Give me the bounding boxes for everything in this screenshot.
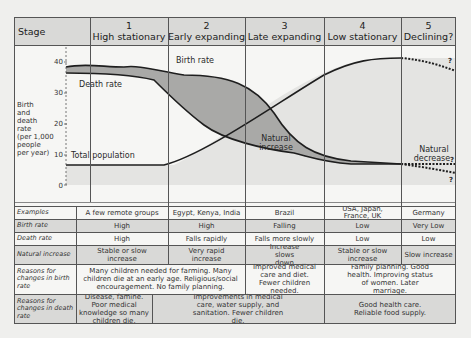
stage-5-header: 5Declining? <box>401 17 456 45</box>
reasons-birth-stages-4-5: Family planning. Good health. Improving … <box>324 264 456 294</box>
svg-text:(per 1,000: (per 1,000 <box>17 133 54 141</box>
divider <box>14 17 15 324</box>
demographic-transition-table: Stage 1High stationary 2Early expanding … <box>14 17 456 324</box>
divider <box>14 17 456 18</box>
svg-text:10: 10 <box>54 151 63 159</box>
death-rate-stage-4: Low <box>324 232 401 245</box>
stage-label-text: Stage <box>18 26 45 37</box>
natural-increase-stage-3: Increase slows down <box>245 245 324 264</box>
stage-number: 5 <box>425 20 431 31</box>
death-rate-label: Death rate <box>79 80 122 89</box>
y-axis-label: Birth and death rate (per 1,000 people p… <box>17 101 54 157</box>
birth-rate-stage-1: High <box>76 219 168 232</box>
divider <box>14 202 456 203</box>
divider <box>401 17 402 264</box>
birth-rate-label: Birth rate <box>176 56 214 65</box>
svg-text:Birth: Birth <box>17 101 34 109</box>
divider <box>90 17 91 202</box>
svg-text:40: 40 <box>54 58 63 66</box>
row-label-birth-rate: Birth rate <box>14 219 76 232</box>
natural-increase-label-2: increase <box>259 143 293 152</box>
stage-4-header: 4Low stationary <box>324 17 401 45</box>
divider <box>14 206 456 207</box>
birth-rate-stage-4: Low <box>324 219 401 232</box>
row-label-examples: Examples <box>14 206 76 219</box>
row-label-reasons-death: Reasons for changes in death rate <box>14 294 76 324</box>
question-mark-population: ? <box>448 57 452 65</box>
stage-2-header: 2Early expanding <box>168 17 245 45</box>
natural-increase-stage-4: Stable or slow increase <box>324 245 401 264</box>
stage-name: Late expanding <box>248 31 322 42</box>
svg-text:rate: rate <box>17 125 31 133</box>
row-label-death-rate: Death rate <box>14 232 76 245</box>
divider <box>14 45 456 46</box>
stage-name: Low stationary <box>328 31 398 42</box>
reasons-birth-stage-3: Improved medical care and diet. Fewer ch… <box>245 264 324 294</box>
examples-stage-4: USA, Japan, France, UK <box>324 206 401 219</box>
divider <box>14 245 456 246</box>
svg-text:0: 0 <box>59 182 63 190</box>
svg-text:death: death <box>17 117 37 125</box>
stage-3-header: 3Late expanding <box>245 17 324 45</box>
natural-decrease-label: Natural <box>419 145 449 154</box>
svg-text:30: 30 <box>54 89 63 97</box>
stage-name: Early expanding <box>168 31 245 42</box>
divider <box>14 264 456 265</box>
dtm-chart: 40 30 20 10 0 Birth and death rate (per … <box>14 45 456 205</box>
reasons-death-stages-2-3: Improvements in medical care, water supp… <box>152 294 324 324</box>
divider <box>14 323 456 324</box>
stage-name: Declining? <box>404 31 453 42</box>
question-mark-death: ? <box>449 176 453 184</box>
death-rate-stage-1: High <box>76 232 168 245</box>
svg-text:and: and <box>17 109 30 117</box>
death-rate-stage-2: Falls rapidly <box>168 232 245 245</box>
examples-stage-5: Germany <box>401 206 456 219</box>
natural-increase-stage-1: Stable or slow increase <box>76 245 168 264</box>
natural-increase-stage-5: Slow increase <box>401 245 456 264</box>
row-label-reasons-birth: Reasons for changes in birth rate <box>14 264 76 294</box>
birth-rate-stage-5: Very Low <box>401 219 456 232</box>
divider <box>455 17 456 324</box>
natural-increase-stage-2: Very rapid increase <box>168 245 245 264</box>
question-mark-birth: ? <box>450 156 454 164</box>
examples-stage-3: Brazil <box>245 206 324 219</box>
stage-1-header: 1High stationary <box>90 17 168 45</box>
divider <box>324 17 325 324</box>
death-rate-stage-5: Low <box>401 232 456 245</box>
svg-text:people: people <box>17 141 41 149</box>
stage-number: 3 <box>281 20 287 31</box>
stage-header-label: Stage <box>14 17 90 45</box>
examples-stage-2: Egypt, Kenya, India <box>168 206 245 219</box>
natural-decrease-label-2: decrease <box>414 154 451 163</box>
divider <box>152 294 153 324</box>
stage-number: 4 <box>359 20 365 31</box>
divider <box>14 232 456 233</box>
stage-number: 1 <box>126 20 132 31</box>
reasons-death-stage-1: Disease, famine. Poor medical knowledge … <box>76 294 152 324</box>
natural-increase-label: Natural <box>261 134 291 143</box>
divider <box>14 294 456 295</box>
total-population-label: Total population <box>70 151 135 160</box>
divider <box>245 17 246 294</box>
examples-stage-1: A few remote groups <box>76 206 168 219</box>
birth-rate-stage-3: Falling <box>245 219 324 232</box>
stage-name: High stationary <box>93 31 166 42</box>
divider <box>168 17 169 264</box>
divider <box>14 219 456 220</box>
row-label-natural-increase: Natural increase <box>14 245 76 264</box>
svg-text:per year): per year) <box>17 149 49 157</box>
svg-text:20: 20 <box>54 120 63 128</box>
birth-rate-stage-2: High <box>168 219 245 232</box>
reasons-birth-stages-1-2: Many children needed for farming. Many c… <box>76 264 245 294</box>
stage-number: 2 <box>203 20 209 31</box>
divider <box>76 206 77 324</box>
reasons-death-stages-4-5: Good health care. Reliable food supply. <box>324 294 456 324</box>
y-ticks: 40 30 20 10 0 <box>54 58 63 190</box>
